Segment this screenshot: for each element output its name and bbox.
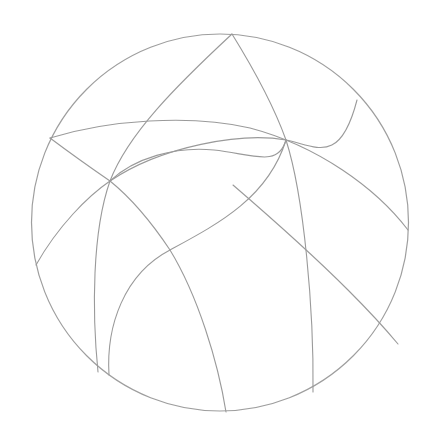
figure-canvas xyxy=(0,0,436,445)
sphere-wireframe-svg xyxy=(0,0,436,445)
